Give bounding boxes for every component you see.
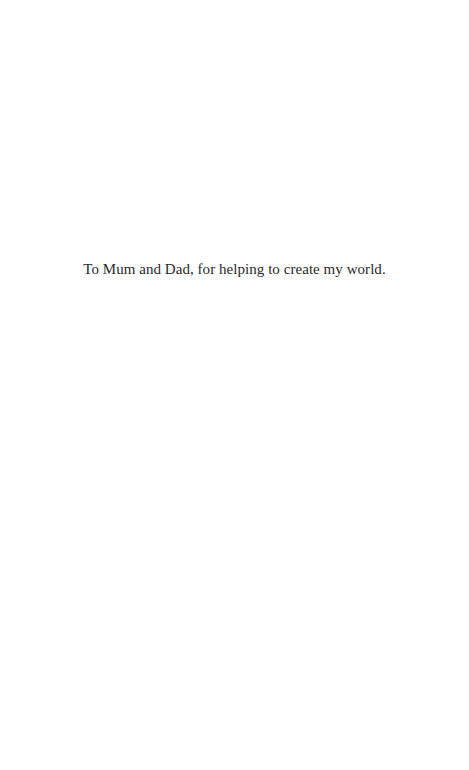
book-page: To Mum and Dad, for helping to create my…: [0, 0, 469, 770]
dedication-text: To Mum and Dad, for helping to create my…: [0, 261, 469, 278]
